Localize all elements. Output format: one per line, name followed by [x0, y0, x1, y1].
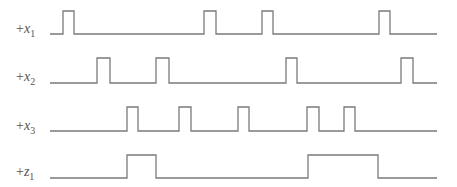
signal-label-x2: +x2	[16, 69, 35, 87]
signal-z1: +z1	[16, 155, 437, 182]
timing-diagram: +x1 +x2 +x3 +z1	[0, 0, 457, 187]
waveform-x2	[50, 58, 437, 83]
signal-x1: +x1	[16, 11, 437, 39]
waveform-z1	[50, 155, 437, 178]
waveform-x3	[50, 107, 437, 131]
signal-label-z1: +z1	[16, 164, 34, 182]
signal-label-x3: +x3	[16, 118, 35, 136]
signal-x2: +x2	[16, 58, 437, 87]
waveform-x1	[50, 11, 437, 34]
signal-x3: +x3	[16, 107, 437, 136]
signal-label-x1: +x1	[16, 21, 35, 39]
